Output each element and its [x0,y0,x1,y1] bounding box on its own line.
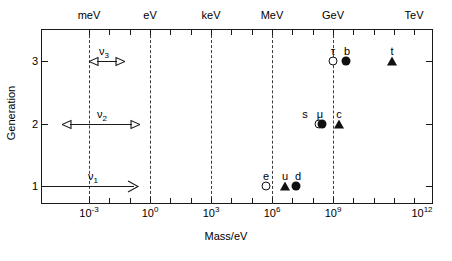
mantissa: 10 [325,207,337,219]
exponent: -3 [92,205,99,214]
top-axis-label-TeV: TeV [405,9,424,21]
point-marker-tau [329,57,338,66]
y-axis-label-1: 1 [26,181,38,192]
y-axis-title: Generation [5,73,17,153]
point-marker-u [280,182,290,191]
mantissa: 10 [411,207,423,219]
tick-bottom-1e3 [211,198,212,203]
tick-top-GeV [333,30,334,35]
tick-top-keV [211,30,212,35]
tick-bottom-minor-10 [374,198,375,203]
point-label-mu: μ [317,109,323,120]
mantissa: 10 [203,207,215,219]
tick-bottom-1e-3 [89,198,90,203]
tick-bottom-minor-3 [170,198,171,203]
tick-bottom-minor-11 [414,198,415,203]
point-label-t: t [390,46,393,57]
tick-bottom-1e9 [333,198,334,203]
tick-top-minor-3 [170,30,171,35]
tick-bottom-minor-6 [252,198,253,203]
y-axis-label-2: 2 [26,119,38,130]
x-axis-label-1e-3: 10-3 [79,207,98,220]
tick-bottom-minor-4 [191,198,192,203]
tick-top-minor-1 [109,30,110,35]
tick-left-gen2 [42,124,48,125]
exponent: 12 [424,205,433,214]
top-axis-label-meV: meV [78,9,101,21]
point-marker-d [292,182,301,191]
point-label-d: d [295,171,301,182]
tick-bottom-1e12-approach [394,198,395,203]
point-label-s: s [302,109,308,120]
exponent: 3 [215,205,219,214]
tick-top-minor-10 [374,30,375,35]
tick-top-minor-9 [353,30,354,35]
tick-right-gen2 [426,124,432,125]
top-axis-label-GeV: GeV [322,9,344,21]
tick-bottom-minor-5 [231,198,232,203]
tick-bottom-1e6 [272,198,273,203]
gridline-keV [211,30,212,204]
mantissa: 10 [264,207,276,219]
tick-top-meV [89,30,90,35]
point-label-c: c [336,109,342,120]
tick-right-gen1 [426,186,432,187]
tick-left-gen3 [42,61,48,62]
range-arrowheads-nu3 [89,54,125,69]
tick-top-minor-6 [252,30,253,35]
range-label-nu1: ν1 [88,171,98,182]
tick-right-gen3 [426,61,432,62]
point-marker-t [387,57,397,66]
tick-top-minor-7 [292,30,293,35]
x-axis-label-1e0: 100 [142,207,159,220]
tick-bottom-minor-7 [292,198,293,203]
range-line-nu1 [42,186,134,187]
tick-top-MeV [272,30,273,35]
tick-top-TeV-approach [394,30,395,35]
y-axis-label-3: 3 [26,56,38,67]
exponent: 6 [276,205,280,214]
particle-mass-generation-chart: meV eV keV MeV GeV TeV 10-3 100 103 106 … [0,0,452,261]
point-label-u: u [282,171,288,182]
x-axis-label-1e9: 109 [325,207,342,220]
point-label-e: e [263,171,269,182]
gridline-MeV [272,30,273,204]
x-axis-label-1e12: 1012 [411,207,432,220]
tick-top-minor-8 [313,30,314,35]
tick-bottom-minor-1 [109,198,110,203]
nu-subscript: 1 [94,176,98,185]
point-marker-e [262,182,271,191]
exponent: 0 [154,205,158,214]
tick-top-eV [150,30,151,35]
point-marker-c [334,120,344,129]
tick-bottom-minor-8 [313,198,314,203]
point-marker-b [342,57,351,66]
x-axis-label-1e6: 106 [264,207,281,220]
tick-top-minor-4 [191,30,192,35]
gridline-eV [150,30,151,204]
x-axis-title: Mass/eV [0,230,452,242]
tick-top-minor-5 [231,30,232,35]
tick-top-minor-11 [414,30,415,35]
tick-bottom-minor-2 [130,198,131,203]
mantissa: 10 [79,207,91,219]
top-axis-label-eV: eV [143,9,156,21]
x-axis-label-1e3: 103 [203,207,220,220]
top-axis-label-keV: keV [202,9,221,21]
top-axis-label-MeV: MeV [261,9,284,21]
mantissa: 10 [142,207,154,219]
tick-bottom-1e0 [150,198,151,203]
range-arrowheads-nu2 [62,117,140,132]
point-marker-mu [318,120,327,129]
tick-top-minor-2 [130,30,131,35]
range-arrowhead-nu1 [125,179,141,194]
point-label-tau: τ [331,46,335,57]
tick-bottom-minor-9 [353,198,354,203]
point-label-b: b [344,46,350,57]
exponent: 9 [337,205,341,214]
